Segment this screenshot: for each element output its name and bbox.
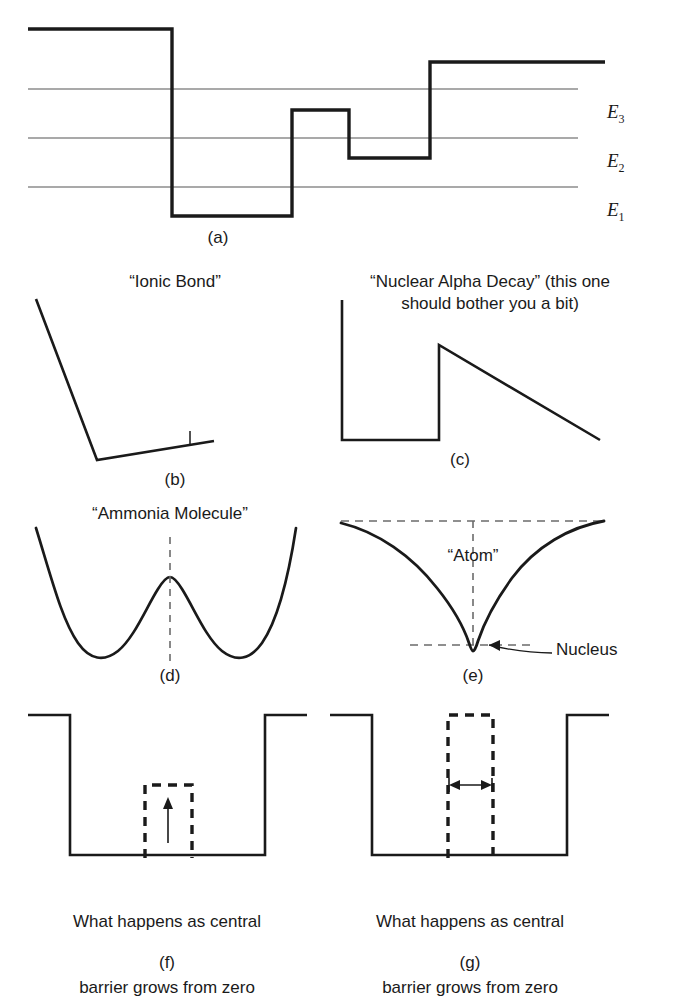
panel-label-d: (d): [160, 666, 181, 687]
panel-d-graphics: [36, 528, 296, 662]
panel-label-a: (a): [208, 228, 229, 249]
panel-g-caption-line1: What happens as central: [376, 911, 564, 933]
panel-e-graphics: [341, 521, 604, 653]
ionic-bond-curve: [36, 299, 214, 460]
arrow-up-icon: [163, 797, 173, 809]
panel-c-caption-line1: “Nuclear Alpha Decay” (this one: [370, 272, 610, 293]
energy-label-e1: E1: [588, 175, 625, 248]
panel-b-caption: “Ionic Bond”: [129, 272, 221, 293]
panel-label-e: (e): [463, 666, 484, 687]
panel-f-caption: What happens as central barrier grows fr…: [73, 867, 261, 999]
panel-b-graphics: [36, 299, 214, 460]
panel-d-caption: “Ammonia Molecule”: [92, 504, 248, 525]
panel-g-caption: What happens as central barrier grows fr…: [376, 867, 564, 999]
alpha-decay-curve: [342, 300, 600, 440]
panel-label-f: (f): [159, 953, 175, 974]
nucleus-label: Nucleus: [556, 640, 617, 661]
panel-label-c: (c): [450, 450, 470, 471]
panel-c-graphics: [342, 300, 600, 440]
nucleus-arrowhead-icon: [489, 640, 500, 651]
ammonia-double-well-curve: [36, 528, 296, 658]
figure-root: E3 E2 E1 (a) “Ionic Bond” (b) “Nuclear A…: [0, 0, 697, 999]
panel-g-caption-line2: barrier grows from zero: [376, 977, 564, 999]
panel-c-caption-line2: should bother you a bit): [401, 294, 579, 315]
panel-f-caption-line2: barrier grows from zero: [73, 977, 261, 999]
panel-f-graphics: [28, 715, 307, 858]
arrow-left-icon: [449, 780, 460, 790]
panel-f-caption-line1: What happens as central: [73, 911, 261, 933]
panel-label-g: (g): [460, 953, 481, 974]
panel-a-graphics: [28, 29, 605, 216]
panel-g-graphics: [330, 715, 609, 858]
arrow-right-icon: [481, 780, 492, 790]
panel-e-caption: “Atom”: [448, 546, 499, 567]
panel-label-b: (b): [165, 470, 186, 491]
step-potential-curve: [28, 29, 605, 216]
